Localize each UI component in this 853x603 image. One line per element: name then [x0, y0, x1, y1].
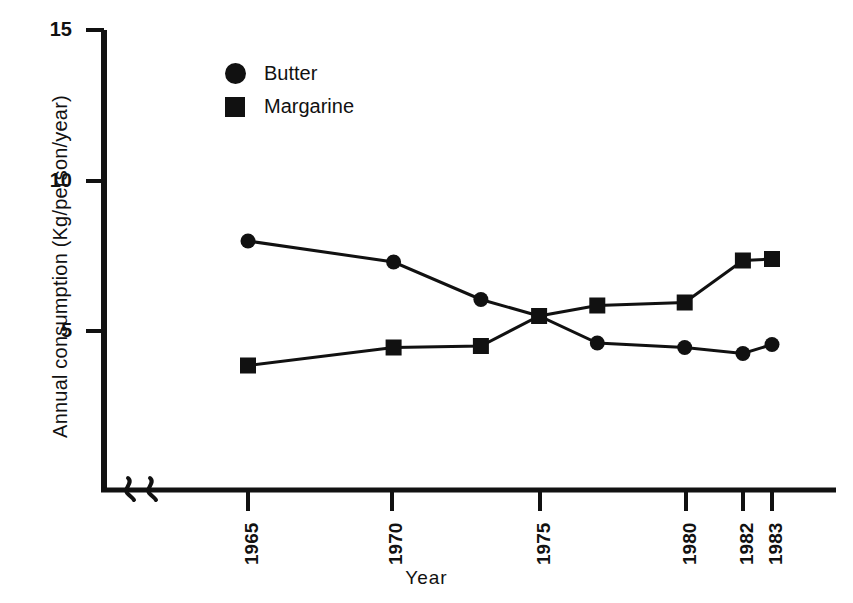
series-butter: [241, 234, 780, 362]
data-point-butter-1980: [677, 340, 692, 355]
series-margarine: [240, 251, 780, 374]
y-tick-label-15: 15: [26, 18, 72, 41]
legend-item-butter: Butter: [222, 57, 354, 90]
circle-marker-icon: [222, 63, 248, 84]
data-point-margarine-1975: [531, 308, 547, 324]
data-point-butter-1970: [386, 255, 401, 270]
legend-item-margarine: Margarine: [222, 90, 354, 123]
x-tick-label-1982: 1982: [736, 523, 758, 565]
line-chart-figure: Annual consumption (Kg/person/year) 15 1…: [0, 0, 853, 603]
x-tick-label-1980: 1980: [679, 523, 701, 565]
data-point-margarine-1965: [240, 358, 256, 374]
data-point-butter-1965: [241, 234, 256, 249]
data-point-butter-1983: [765, 337, 780, 352]
y-tick-label-5: 5: [26, 319, 72, 342]
data-point-margarine-1977: [589, 298, 605, 314]
x-axis-title: Year: [0, 567, 853, 589]
data-point-margarine-1982: [735, 253, 751, 269]
data-point-butter-1982: [735, 346, 750, 361]
x-tick-label-1975: 1975: [533, 523, 555, 565]
data-point-margarine-1980: [677, 295, 693, 311]
data-point-margarine-1973: [473, 338, 489, 354]
y-tick-label-10: 10: [26, 169, 72, 192]
data-point-margarine-1970: [386, 340, 402, 356]
data-point-margarine-1983: [764, 251, 780, 267]
plot-area: [0, 0, 853, 603]
data-series-layer: [240, 234, 780, 374]
x-tick-label-1970: 1970: [385, 523, 407, 565]
legend-label-margarine: Margarine: [264, 95, 354, 118]
data-point-butter-1973: [473, 292, 488, 307]
chart-legend: Butter Margarine: [222, 57, 354, 123]
x-axis-ticks: [248, 492, 772, 511]
x-tick-label-1983: 1983: [765, 523, 787, 565]
legend-label-butter: Butter: [264, 62, 317, 85]
y-axis-title: Annual consumption (Kg/person/year): [49, 57, 72, 477]
square-marker-icon: [222, 97, 248, 117]
x-tick-label-1965: 1965: [241, 523, 263, 565]
data-point-butter-1977: [590, 336, 605, 351]
